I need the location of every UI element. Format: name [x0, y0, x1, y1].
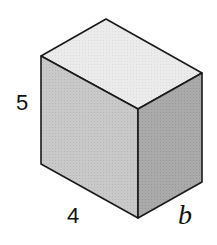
rectangular-prism-diagram: 5 4 b [0, 0, 217, 245]
length-label: 4 [67, 203, 79, 228]
height-label: 5 [16, 90, 28, 115]
width-label: b [178, 199, 192, 230]
